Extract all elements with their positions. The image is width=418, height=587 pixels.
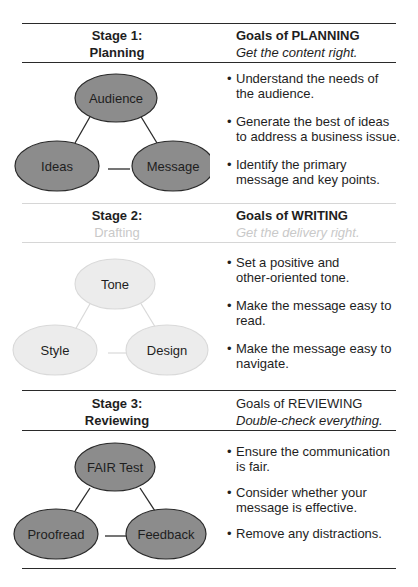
- bottom-rule: [22, 568, 396, 569]
- goal-item: •Identify the primarymessage and key poi…: [227, 158, 412, 187]
- node-tone-label: Tone: [101, 277, 129, 292]
- stage1-name: Planning: [22, 45, 212, 60]
- connector-top-left: [75, 302, 91, 330]
- stage2-goals-list: •Set a positive andother-oriented tone. …: [227, 256, 412, 371]
- connector-top-left: [75, 488, 90, 511]
- goal-item: •Consider whether yourmessage is effecti…: [227, 486, 412, 515]
- stage3-goals-list: •Ensure the communicationis fair. •Consi…: [227, 445, 412, 542]
- node-feedback-label: Feedback: [137, 527, 195, 542]
- stage2-goals-title: Goals of WRITING: [236, 208, 416, 223]
- node-proofread-label: Proofread: [27, 527, 84, 542]
- stage1-header-rule: [22, 62, 396, 63]
- goal-item: •Generate the best of ideasto address a …: [227, 115, 412, 144]
- stage3-goals-title: Goals of REVIEWING: [236, 396, 416, 411]
- connector-top-right: [140, 115, 157, 143]
- bullet-icon: •: [227, 445, 232, 460]
- connector-top-right: [140, 488, 155, 511]
- goal-item: •Ensure the communicationis fair.: [227, 445, 412, 474]
- stage1-goals-title: Goals of PLANNING: [236, 28, 416, 43]
- stage3-label: Stage 3:: [22, 396, 212, 411]
- connector-top-left: [75, 115, 91, 143]
- stage1-goals-list: •Understand the needs ofthe audience. •G…: [227, 72, 412, 187]
- stage1-label: Stage 1:: [22, 28, 212, 43]
- goal-item: •Set a positive andother-oriented tone.: [227, 256, 412, 285]
- bullet-icon: •: [227, 72, 232, 87]
- bullet-icon: •: [227, 486, 232, 501]
- node-style-label: Style: [41, 343, 70, 358]
- bullet-icon: •: [227, 342, 232, 357]
- stage3-header-rule: [22, 430, 396, 431]
- goal-item: •Understand the needs ofthe audience.: [227, 72, 412, 101]
- stage1-goals-tagline: Get the content right.: [236, 45, 416, 60]
- bullet-icon: •: [227, 115, 232, 130]
- bullet-icon: •: [227, 527, 232, 542]
- top-rule: [22, 23, 396, 24]
- node-design-label: Design: [147, 343, 187, 358]
- bullet-icon: •: [227, 299, 232, 314]
- stage2-goals-tagline: Get the delivery right.: [236, 225, 416, 240]
- node-ideas-label: Ideas: [41, 159, 73, 174]
- node-message-label: Message: [147, 159, 200, 174]
- stage3-top-rule: [22, 390, 396, 391]
- stage2-label: Stage 2:: [22, 208, 212, 223]
- bullet-icon: •: [227, 256, 232, 271]
- node-fair-test-label: FAIR Test: [87, 460, 144, 475]
- goal-item: •Make the message easy tonavigate.: [227, 342, 412, 371]
- stage3-diagram: FAIR Test Proofread Feedback: [0, 438, 215, 568]
- stage2-name: Drafting: [22, 225, 212, 240]
- stage2-top-rule: [22, 203, 396, 204]
- stage3-goals-tagline: Double-check everything.: [236, 413, 416, 428]
- bullet-icon: •: [227, 158, 232, 173]
- stage3-name: Reviewing: [22, 413, 212, 428]
- node-audience-label: Audience: [89, 91, 143, 106]
- goal-item: •Remove any distractions.: [227, 527, 412, 542]
- goal-item: •Make the message easy toread.: [227, 299, 412, 328]
- stage1-diagram: Audience Ideas Message: [0, 65, 210, 200]
- stage2-header-rule: [22, 242, 396, 243]
- stage2-diagram: Tone Style Design: [0, 250, 210, 385]
